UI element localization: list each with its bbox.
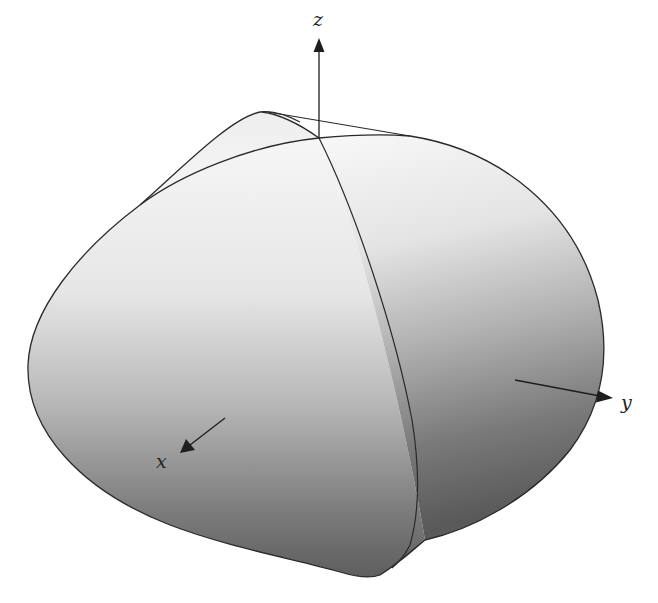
z-axis xyxy=(314,38,325,138)
y-arrowhead-icon xyxy=(596,391,613,403)
solid-figure xyxy=(0,0,658,603)
x-axis-label: x xyxy=(156,452,167,471)
z-arrowhead-icon xyxy=(314,38,325,52)
diagram-canvas: z y x xyxy=(0,0,658,603)
y-axis-label: y xyxy=(621,393,632,412)
z-axis-label: z xyxy=(313,10,323,29)
